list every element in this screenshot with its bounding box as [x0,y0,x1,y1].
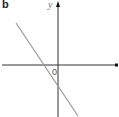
y-axis-label: y [48,0,52,10]
origin-label: 0 [52,67,57,77]
y-axis-arrow-icon [56,1,60,7]
x-axis-arrow-icon [115,64,118,67]
coordinate-plane [0,0,119,117]
graph-line [16,23,78,116]
